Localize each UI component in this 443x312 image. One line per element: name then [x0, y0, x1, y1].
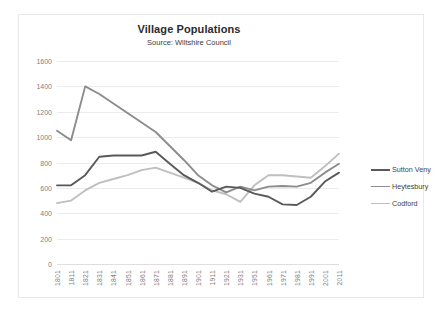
x-axis-tick-label: 1811 [68, 270, 75, 285]
x-axis-tick-label: 1981 [293, 270, 300, 286]
x-axis-tick-label: 1831 [96, 270, 103, 286]
chart-header: Village Populations Source: Wiltshire Co… [19, 23, 359, 47]
x-axis-tick-label: 1931 [237, 270, 244, 286]
legend-color-swatch [371, 186, 390, 187]
chart-title: Village Populations [19, 23, 359, 35]
x-axis-tick-label: 1921 [223, 270, 230, 286]
x-axis-tick-label: 1961 [265, 270, 272, 286]
x-axis-tick-label: 1861 [138, 270, 145, 286]
gridline [57, 264, 339, 265]
y-axis-tick-label: 1600 [36, 58, 52, 65]
x-axis-tick-label: 1951 [251, 270, 258, 286]
chart-legend: Sutton VenyHeytesburyCodford [371, 161, 443, 212]
series-line [57, 154, 339, 203]
chart-subtitle: Source: Wiltshire Council [19, 38, 359, 47]
plot-area: 02004006008001000120014001600 1801181118… [57, 61, 339, 264]
y-axis-tick-label: 1200 [36, 108, 52, 115]
x-axis-tick-label: 1801 [54, 270, 61, 286]
x-axis-tick-label: 1991 [307, 270, 314, 286]
legend-color-swatch [371, 203, 390, 204]
y-axis-tick-label: 1000 [36, 134, 52, 141]
legend-item[interactable]: Heytesbury [371, 178, 443, 195]
series-lines [57, 61, 339, 264]
y-axis-tick-label: 0 [48, 261, 52, 268]
y-axis-tick-label: 1400 [36, 83, 52, 90]
x-axis-tick-label: 1971 [279, 270, 286, 286]
x-axis-tick-label: 2011 [336, 270, 343, 285]
chart-container: Village Populations Source: Wiltshire Co… [18, 14, 424, 298]
x-axis-tick-label: 2001 [321, 270, 328, 286]
legend-item[interactable]: Sutton Veny [371, 161, 443, 178]
x-axis-tick-label: 1881 [166, 270, 173, 286]
x-axis-tick-label: 1851 [124, 270, 131, 286]
legend-item[interactable]: Codford [371, 195, 443, 212]
x-axis-tick-label: 1821 [82, 270, 89, 286]
series-line [57, 152, 339, 205]
x-axis-tick-label: 1841 [110, 270, 117, 286]
x-axis-tick-label: 1901 [195, 270, 202, 286]
legend-item-label: Heytesbury [392, 182, 428, 191]
y-axis-tick-label: 800 [40, 159, 52, 166]
x-axis-tick-label: 1911 [209, 270, 216, 285]
y-axis-tick-label: 400 [40, 210, 52, 217]
x-axis-tick-label: 1891 [180, 270, 187, 286]
x-axis-tick-label: 1871 [152, 270, 159, 286]
legend-item-label: Codford [392, 199, 418, 208]
y-axis-tick-label: 600 [40, 184, 52, 191]
legend-item-label: Sutton Veny [392, 165, 431, 174]
y-axis-tick-label: 200 [40, 235, 52, 242]
legend-color-swatch [371, 169, 390, 171]
